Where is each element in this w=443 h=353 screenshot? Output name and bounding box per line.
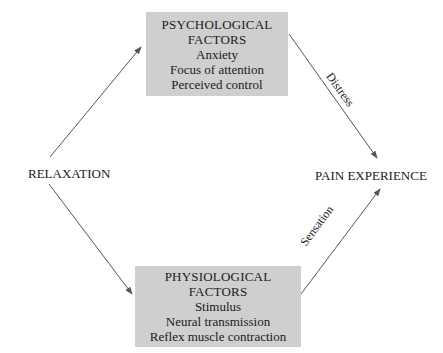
arrow-relaxation-to-physiological bbox=[49, 184, 132, 294]
psychological-item: Anxiety bbox=[196, 47, 238, 62]
arrow-relaxation-to-psychological bbox=[50, 47, 141, 157]
edge-label-sensation: Sensation bbox=[297, 203, 336, 249]
physiological-title-line1: PHYSIOLOGICAL bbox=[165, 269, 272, 284]
physiological-factors-box: PHYSIOLOGICAL FACTORS Stimulus Neural tr… bbox=[135, 266, 301, 347]
physiological-item: Reflex muscle contraction bbox=[150, 329, 286, 344]
physiological-title-line2: FACTORS bbox=[189, 284, 248, 299]
physiological-item: Stimulus bbox=[195, 299, 241, 314]
psychological-item: Focus of attention bbox=[170, 62, 264, 77]
arrow-psychological-to-pain bbox=[289, 34, 377, 158]
pain-experience-node: PAIN EXPERIENCE bbox=[315, 168, 427, 184]
psychological-item: Perceived control bbox=[171, 77, 262, 92]
physiological-item: Neural transmission bbox=[166, 314, 270, 329]
psychological-title-line2: FACTORS bbox=[188, 32, 247, 47]
psychological-factors-box: PSYCHOLOGICAL FACTORS Anxiety Focus of a… bbox=[146, 12, 288, 96]
relaxation-node: RELAXATION bbox=[28, 166, 110, 182]
psychological-title-line1: PSYCHOLOGICAL bbox=[162, 17, 273, 32]
